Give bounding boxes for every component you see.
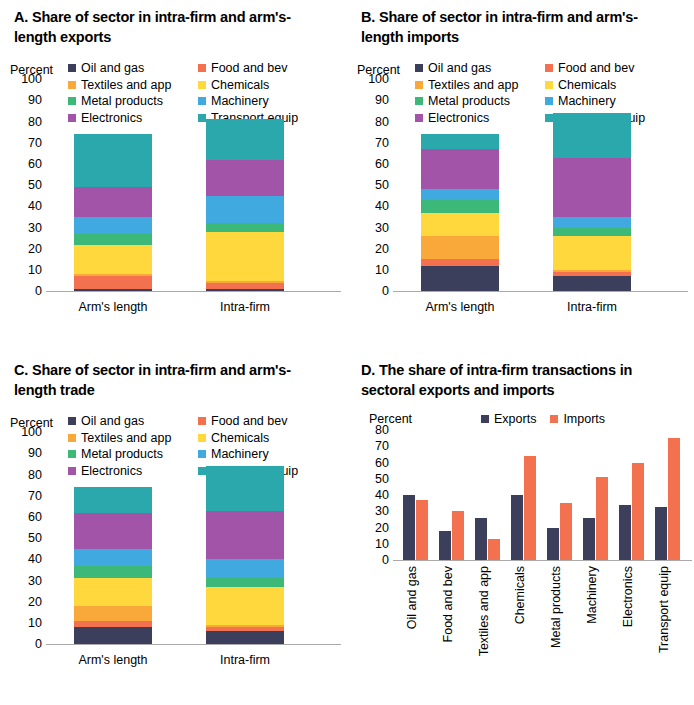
y-tick-70: 70 <box>375 136 389 150</box>
bar-exports-5 <box>583 518 595 560</box>
y-tick-0: 0 <box>35 284 42 298</box>
panel-c-x-labels: Arm's lengthIntra-firm <box>46 653 341 673</box>
bar-segment-oil_and_gas <box>74 289 152 291</box>
bar-segment-machinery <box>553 217 631 228</box>
y-tick-50: 50 <box>375 472 389 486</box>
legend-swatch-oil_and_gas-icon <box>68 64 76 72</box>
stacked-bar <box>421 134 499 291</box>
bar-segment-transport_equip <box>421 134 499 149</box>
y-tick-30: 30 <box>375 221 389 235</box>
y-tick-100: 100 <box>21 425 42 439</box>
bar-segment-food_and_bev <box>74 276 152 289</box>
y-tick-100: 100 <box>368 72 389 86</box>
bar-segment-chemicals <box>74 578 152 606</box>
y-tick-0: 0 <box>382 553 389 567</box>
panel-c: C. Share of sector in intra-firm and arm… <box>0 353 347 705</box>
bar-segment-oil_and_gas <box>206 289 284 291</box>
bar-exports-2 <box>475 518 487 560</box>
x-label-1: Intra-firm <box>190 653 300 667</box>
y-tick-80: 80 <box>28 115 42 129</box>
panel-a-chart: Percent Oil and gasFood and bevTextiles … <box>0 57 347 342</box>
bar-segment-metal_products <box>206 223 284 231</box>
bar-segment-chemicals <box>206 232 284 281</box>
legend-label: Food and bev <box>558 61 634 75</box>
x-label-0: Arm's length <box>58 653 168 667</box>
bar-exports-7 <box>655 507 667 561</box>
panel-b-legend-item-oil_and_gas: Oil and gas <box>415 60 545 77</box>
panel-a: A. Share of sector in intra-firm and arm… <box>0 0 347 352</box>
bar-slot-1 <box>206 432 284 644</box>
panel-d-title: D. The share of intra-firm transactions … <box>347 353 694 400</box>
y-tick-40: 40 <box>28 199 42 213</box>
bar-segment-metal_products <box>74 566 152 579</box>
bar-imports-3 <box>524 456 536 560</box>
panel-d-legend-item-imports: Imports <box>550 412 605 426</box>
bar-segment-transport_equip <box>74 134 152 187</box>
bar-segment-electronics <box>206 511 284 560</box>
panel-a-legend-item-oil_and_gas: Oil and gas <box>68 60 198 77</box>
x-label-3: Chemicals <box>513 566 527 624</box>
y-tick-30: 30 <box>28 221 42 235</box>
stacked-bar <box>553 113 631 291</box>
bar-exports-0 <box>403 495 415 560</box>
y-tick-80: 80 <box>375 115 389 129</box>
legend-swatch-oil_and_gas-icon <box>68 417 76 425</box>
stacked-bar <box>206 466 284 644</box>
y-tick-40: 40 <box>28 552 42 566</box>
bar-segment-chemicals <box>206 587 284 625</box>
y-tick-20: 20 <box>28 242 42 256</box>
bar-slot-0 <box>74 79 152 291</box>
panel-b-x-labels: Arm's lengthIntra-firm <box>393 300 688 320</box>
y-tick-10: 10 <box>375 263 389 277</box>
legend-swatch-food_and_bev-icon <box>198 64 206 72</box>
panel-a-y-axis: 0102030405060708090100 <box>8 79 42 291</box>
bar-segment-textiles_and_app <box>74 606 152 621</box>
legend-swatch-imports-icon <box>550 415 558 423</box>
x-label-2: Textiles and app <box>477 566 491 656</box>
bar-segment-metal_products <box>206 578 284 586</box>
bar-imports-2 <box>488 539 500 560</box>
bar-segment-transport_equip <box>206 119 284 159</box>
y-tick-70: 70 <box>375 439 389 453</box>
bar-group-1 <box>435 430 471 560</box>
bar-imports-7 <box>668 438 680 560</box>
bar-segment-transport_equip <box>206 466 284 511</box>
legend-swatch-food_and_bev-icon <box>198 417 206 425</box>
bar-segment-machinery <box>206 196 284 224</box>
y-tick-70: 70 <box>28 489 42 503</box>
y-tick-30: 30 <box>375 504 389 518</box>
y-tick-0: 0 <box>35 637 42 651</box>
y-tick-30: 30 <box>28 574 42 588</box>
legend-label: Exports <box>494 412 536 426</box>
y-tick-50: 50 <box>28 531 42 545</box>
legend-swatch-food_and_bev-icon <box>545 64 553 72</box>
panel-d-legend: ExportsImports <box>481 412 605 426</box>
legend-label: Oil and gas <box>81 61 144 75</box>
y-tick-80: 80 <box>28 468 42 482</box>
bar-segment-machinery <box>74 549 152 566</box>
y-tick-10: 10 <box>28 616 42 630</box>
x-label-0: Oil and gas <box>405 566 419 629</box>
y-tick-70: 70 <box>28 136 42 150</box>
panel-d-chart: Percent ExportsImports 01020304050607080… <box>347 410 694 705</box>
bar-exports-1 <box>439 531 451 560</box>
panel-b-title: B. Share of sector in intra-firm and arm… <box>347 0 694 47</box>
legend-label: Oil and gas <box>428 61 491 75</box>
bar-segment-electronics <box>74 187 152 217</box>
panel-c-chart: Percent Oil and gasFood and bevTextiles … <box>0 410 347 695</box>
y-tick-90: 90 <box>375 93 389 107</box>
bar-slot-0 <box>74 432 152 644</box>
bar-group-7 <box>651 430 687 560</box>
panel-d: D. The share of intra-firm transactions … <box>347 353 694 705</box>
y-tick-20: 20 <box>28 595 42 609</box>
bar-segment-textiles_and_app <box>421 236 499 259</box>
panel-b-legend-item-food_and_bev: Food and bev <box>545 60 685 77</box>
bar-imports-4 <box>560 503 572 560</box>
bar-imports-5 <box>596 477 608 560</box>
bar-segment-oil_and_gas <box>421 266 499 291</box>
y-tick-10: 10 <box>28 263 42 277</box>
y-tick-60: 60 <box>28 157 42 171</box>
panel-d-y-axis: 01020304050607080 <box>355 430 389 560</box>
bar-exports-6 <box>619 505 631 560</box>
bar-segment-machinery <box>74 217 152 234</box>
